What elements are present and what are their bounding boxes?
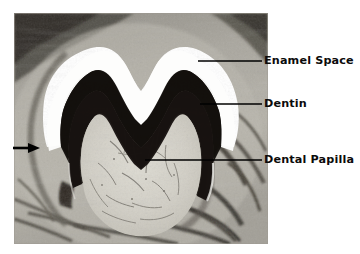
label-enamel-space: Enamel Space bbox=[264, 55, 354, 66]
label-dentin: Dentin bbox=[264, 98, 307, 109]
micrograph-canvas bbox=[14, 13, 268, 244]
tooth-germ-micrograph bbox=[14, 13, 268, 244]
figure-root: Enamel Space Dentin Dental Papilla bbox=[0, 0, 360, 254]
label-dental-papilla: Dental Papilla bbox=[264, 154, 354, 165]
